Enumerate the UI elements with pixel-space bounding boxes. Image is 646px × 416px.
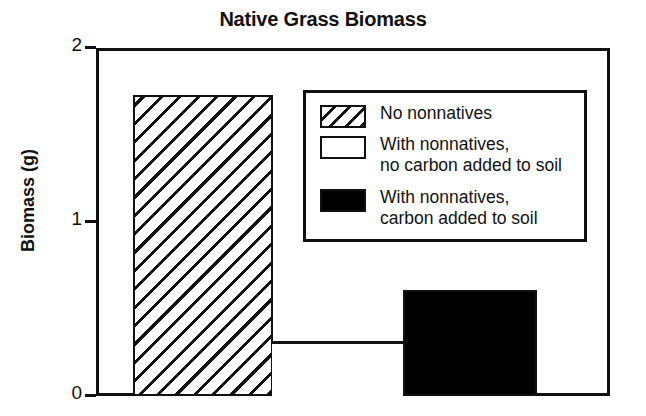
legend-item-no-nonnatives: No nonnatives xyxy=(320,103,492,128)
chart-title: Native Grass Biomass xyxy=(0,8,646,31)
bar-no-nonnatives xyxy=(133,95,273,396)
chart-figure: Native Grass Biomass Biomass (g) 2 1 0 N… xyxy=(0,0,646,416)
y-tick-mark-1 xyxy=(85,220,96,223)
black-swatch-icon xyxy=(320,189,366,212)
legend-label-carbon: With nonnatives, carbon added to soil xyxy=(380,187,538,229)
y-axis-label: Biomass (g) xyxy=(18,111,39,291)
white-swatch-icon xyxy=(320,136,366,159)
legend: No nonnatives With nonnatives, no carbon… xyxy=(303,90,587,242)
bar-with-nonnatives-carbon xyxy=(403,290,537,396)
y-tick-mark-2 xyxy=(85,46,96,49)
legend-item-carbon: With nonnatives, carbon added to soil xyxy=(320,187,538,229)
y-tick-label-1: 1 xyxy=(42,208,82,230)
legend-item-no-carbon: With nonnatives, no carbon added to soil xyxy=(320,134,562,176)
legend-label-no-carbon: With nonnatives, no carbon added to soil xyxy=(380,134,562,176)
y-tick-label-0: 0 xyxy=(42,382,82,404)
legend-label-no-nonnatives: No nonnatives xyxy=(380,103,492,124)
y-tick-label-2: 2 xyxy=(42,34,82,56)
hatched-swatch-icon xyxy=(320,105,366,128)
y-tick-mark-0 xyxy=(85,394,96,397)
bar-with-nonnatives-no-carbon xyxy=(272,341,404,396)
